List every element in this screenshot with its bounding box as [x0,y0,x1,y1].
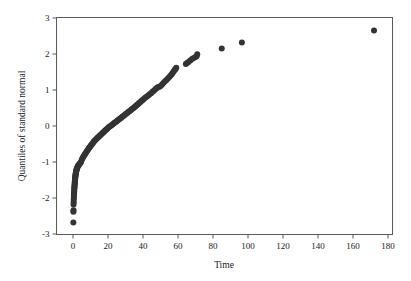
y-tick-label: 0 [45,121,50,131]
x-tick-label: 100 [241,241,255,251]
y-tick-label: -2 [42,193,50,203]
x-tick-label: 40 [139,241,149,251]
scatter-plot-canvas: 020406080100120140160180 -3-2-10123 Time… [0,0,411,281]
y-tick-label: -1 [42,157,50,167]
x-tick-label: 60 [174,241,184,251]
x-axis-label: Time [214,260,234,270]
x-tick-label: 140 [311,241,325,251]
x-tick-label: 180 [381,241,395,251]
x-tick-labels: 020406080100120140160180 [71,241,396,251]
data-point [239,39,245,45]
x-tick-label: 20 [104,241,114,251]
data-point [371,28,377,34]
y-tick-label: 2 [45,49,50,59]
y-tick-labels: -3-2-10123 [42,13,50,239]
x-tick-label: 0 [71,241,76,251]
y-tick-label: 3 [45,13,50,23]
y-tick-label: -3 [42,229,50,239]
y-axis-ticks [53,18,57,234]
x-tick-label: 120 [276,241,290,251]
x-tick-label: 160 [346,241,360,251]
qq-plot-figure: 020406080100120140160180 -3-2-10123 Time… [0,0,411,281]
data-point [219,46,225,52]
x-tick-label: 80 [209,241,219,251]
data-point [173,65,179,71]
data-points [70,28,377,226]
data-point [194,51,200,57]
data-point [70,219,76,225]
data-point [71,207,77,213]
y-axis-label: Quantiles of standard normal [17,70,27,181]
y-tick-label: 1 [45,85,50,95]
x-axis-ticks [73,235,388,239]
